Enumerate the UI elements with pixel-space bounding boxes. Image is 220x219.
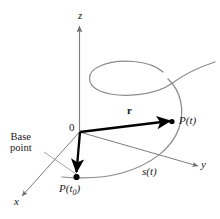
- arc-length-label-close: ): [153, 165, 157, 177]
- point-dot-P-t0: [73, 174, 79, 180]
- figure-canvas: [0, 0, 220, 219]
- base-point-leader-line: [44, 152, 79, 176]
- x-axis-label: x: [14, 196, 19, 208]
- base-point-label: Base point: [10, 131, 32, 153]
- z-axis-label: z: [78, 10, 82, 22]
- arc-length-label: s(t): [142, 166, 157, 178]
- point-P-t-label: P(t): [179, 115, 196, 127]
- base-point-label-line2: point: [10, 142, 32, 153]
- vector-r-arrow: [80, 121, 170, 132]
- point-P-t0-label-main: P(t: [59, 182, 72, 194]
- point-dot-P-t: [169, 119, 174, 124]
- curve-loop: [90, 61, 216, 95]
- space-curve-figure: z y x 0 r P(t) P(t0) s(t) Base point: [0, 0, 220, 219]
- vector-base-point-arrow: [77, 132, 81, 172]
- origin-label: 0: [69, 122, 75, 134]
- point-P-t0-label-close: ): [76, 182, 80, 194]
- axes-group: [22, 26, 198, 196]
- y-axis-line: [80, 132, 199, 166]
- y-axis-label: y: [201, 159, 206, 171]
- vector-r-label: r: [127, 105, 132, 117]
- base-point-label-line1: Base: [10, 131, 32, 142]
- point-P-t0-label: P(t0): [59, 183, 80, 198]
- arc-length-label-main: s(t: [142, 165, 153, 177]
